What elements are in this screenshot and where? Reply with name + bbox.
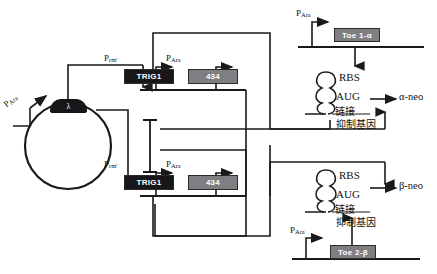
hairpin-beta-rbs-label: RBS <box>339 170 360 181</box>
repression-bar-top <box>143 120 157 172</box>
toehold-beta-gene-label: Toe 2-β <box>338 248 368 257</box>
cassette-bottom-gene-434-label: 434 <box>206 178 220 187</box>
toehold-beta-promoter-label: PAra <box>290 226 305 236</box>
cassette-top-to-hairpin-alpha-wire <box>270 120 330 129</box>
cassette-bottom-gene-434: 434 <box>188 175 238 190</box>
toehold-alpha-promoter-sub: Ara <box>301 11 311 18</box>
cassette-top-promoter2-label: PAra <box>166 54 181 64</box>
cassette-bottom-gene-trig1-label: TRIG1 <box>136 178 161 187</box>
lambda-cap-label: λ <box>67 102 71 111</box>
genetic-circuit-diagram: λ PAra Prm' PAra TRIG1 434 Prm' PAra TRI… <box>0 0 437 274</box>
alpha-neo-output-label: α-neo <box>399 92 423 103</box>
cassette-top-gene-434-label: 434 <box>206 72 220 81</box>
hairpin-alpha-repressor-gene-label: 抑制基因 <box>336 120 376 130</box>
hairpin-beta-aug-label: AUG <box>336 189 360 200</box>
hairpin-alpha-aug-label: AUG <box>336 91 360 102</box>
cassette-bottom-gene-trig1: TRIG1 <box>124 175 174 190</box>
cassette-top-gene-trig1: TRIG1 <box>124 69 174 84</box>
cassette-top-promoter2-sub: Ara <box>171 56 181 63</box>
toehold-beta-gene-box: Toe 2-β <box>330 245 376 259</box>
hairpin-alpha-rbs-label: RBS <box>339 72 360 83</box>
cassette-bottom-promoter1-label: Prm' <box>104 160 117 170</box>
cassette-top-promoter1-sub: rm' <box>109 56 117 63</box>
cassette-top-gene-434: 434 <box>188 69 238 84</box>
lambda-repressor-cap: λ <box>50 99 87 113</box>
hairpin-alpha-linker-label: 链接 <box>335 107 355 117</box>
hairpin-beta-linker-label: 链接 <box>335 205 355 215</box>
toehold-alpha-gene-label: Toe 1-α <box>342 31 372 40</box>
cassette-top-gene-trig1-label: TRIG1 <box>136 72 161 81</box>
hairpin-beta-repressor-gene-label: 抑制基因 <box>336 218 376 228</box>
toehold-alpha-promoter-label: PAra <box>296 9 311 19</box>
cassette-bottom-promoter1-sub: rm' <box>109 162 117 169</box>
plasmid-graphic <box>25 103 111 189</box>
cassette-bottom-promoter2-label: PAra <box>166 160 181 170</box>
toehold-beta-promoter-sub: Ara <box>295 228 305 235</box>
toehold-alpha-gene-box: Toe 1-α <box>334 28 380 42</box>
cassette-top-promoter1-label: Prm' <box>104 54 117 64</box>
beta-neo-output-label: β-neo <box>399 181 423 192</box>
beta-activation-wire <box>270 162 385 196</box>
plasmid-circle-outline <box>25 103 111 189</box>
cassette-bottom-promoter2-sub: Ara <box>171 162 181 169</box>
